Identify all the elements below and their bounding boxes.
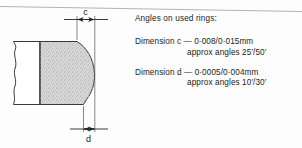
figure-container: c d Angles on used rings: Dimension c — … (0, 0, 302, 148)
dimension-d-label: d (86, 134, 91, 144)
ring-cross-section-drawing: c d (0, 0, 140, 148)
dimension-d: d (70, 129, 108, 144)
notes-block: Angles on used rings: Dimension c — 0·00… (135, 14, 300, 98)
dimension-c: c (64, 7, 108, 20)
dimension-c-label: c (83, 7, 88, 17)
note-d-angles: approx angles 10′/30′ (135, 78, 300, 87)
note-entry-dimension-c: Dimension c — 0·008/0·015mm approx angle… (135, 37, 300, 57)
ring-body-left-broken-section (14, 42, 41, 105)
note-d-tolerance: Dimension d — 0·0005/0·004mm (135, 68, 300, 77)
note-c-tolerance: Dimension c — 0·008/0·015mm (135, 37, 300, 46)
note-entry-dimension-d: Dimension d — 0·0005/0·004mm approx angl… (135, 68, 300, 88)
notes-heading: Angles on used rings: (135, 14, 300, 23)
ring-body-running-face (40, 42, 95, 105)
note-c-angles: approx angles 25′/50′ (135, 48, 300, 57)
